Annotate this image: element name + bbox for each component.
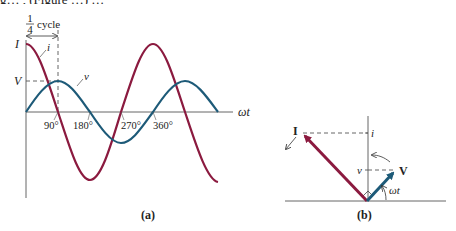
i-curve-label: i <box>47 41 50 53</box>
i-projection-label: i <box>371 127 374 139</box>
I-phasor-label: I <box>293 124 298 138</box>
tick-360: 360° <box>153 120 173 131</box>
V-phasor-label: V <box>399 164 408 178</box>
tick-leader-360 <box>153 112 156 120</box>
omega-t-angle-label: ωt <box>389 184 401 196</box>
tick-leader-180 <box>88 112 90 120</box>
v-projection-label: v <box>357 164 362 176</box>
tick-180: 180° <box>73 120 93 131</box>
i-leader <box>40 50 46 57</box>
panel-a-waveforms: 1 4 cycle I V i v ωt 90° 180° 270° 360° … <box>14 12 250 222</box>
tick-270: 270° <box>121 120 141 131</box>
I-rotation-arrow-icon <box>286 137 296 149</box>
quarter-cycle-text: cycle <box>37 18 60 30</box>
rotation-arrow-icon <box>372 155 390 162</box>
quarter-den: 4 <box>27 23 33 35</box>
omega-t-axis-label: ωt <box>238 105 250 119</box>
panel-b-caption: (b) <box>357 208 372 222</box>
current-wave-i <box>26 44 218 182</box>
v-leader <box>77 79 83 86</box>
figure: 1 4 cycle I V i v ωt 90° 180° 270° 360° … <box>0 0 456 231</box>
V-peak-label: V <box>14 74 23 88</box>
tick-leader-90 <box>54 112 58 120</box>
I-peak-label: I <box>14 37 20 51</box>
v-curve-label: v <box>84 70 89 82</box>
panel-a-caption: (a) <box>141 208 155 222</box>
tick-90: 90° <box>44 120 59 131</box>
tick-leader-270 <box>121 112 124 120</box>
angle-arc <box>382 186 386 200</box>
panel-b-phasors: I V i v ωt (b) <box>285 116 446 222</box>
